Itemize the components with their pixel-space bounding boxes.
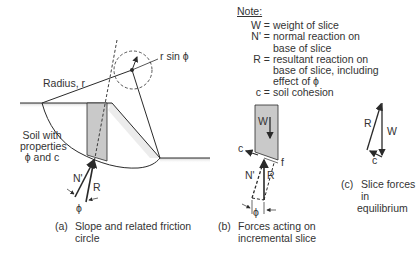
- phi-tick-right: [89, 198, 98, 200]
- note-header: Note:: [237, 6, 379, 17]
- soil-label: Soil with properties ϕ and c: [20, 130, 64, 163]
- note-legend: Note: W = weight of slice N' = normal re…: [237, 6, 379, 99]
- caption-c: (c) Slice forces in equilibrium: [341, 178, 417, 214]
- r-label-b: R: [267, 170, 275, 181]
- c-label-b: c: [238, 143, 243, 154]
- phi-tick-left: [67, 189, 74, 194]
- c-label-c: c: [372, 155, 377, 166]
- phi-label-b: ϕ: [253, 207, 259, 218]
- f-label-b: f: [281, 157, 284, 168]
- panel-a-slope: [20, 40, 210, 202]
- caption-b: (b) Forces acting on incremental slice: [218, 220, 316, 244]
- phi-label-a: ϕ: [76, 203, 82, 214]
- r-label-c: R: [364, 118, 372, 129]
- r-label-a: R: [93, 182, 101, 193]
- slope-face-line: [112, 103, 160, 158]
- caption-a: (a) Slope and related friction circle: [55, 220, 191, 244]
- note-item-c: c = soil cohesion: [237, 87, 379, 98]
- radius-label: Radius, r: [43, 78, 85, 89]
- phi-tick-left-b: [242, 204, 250, 208]
- toe-ground-shading: [160, 158, 210, 163]
- n-prime-label-a: N': [73, 173, 83, 184]
- w-label-c: W: [387, 126, 397, 137]
- w-label-b: W: [258, 116, 268, 127]
- rsin-label: r sin ϕ: [160, 51, 189, 62]
- slice-b: [255, 105, 278, 160]
- parallelogram-base-b: [252, 198, 264, 200]
- n-prime-label-b: N': [245, 170, 255, 181]
- panel-c-force-polygon: [367, 103, 382, 157]
- note-item-n: N' = normal reaction on: [237, 31, 379, 42]
